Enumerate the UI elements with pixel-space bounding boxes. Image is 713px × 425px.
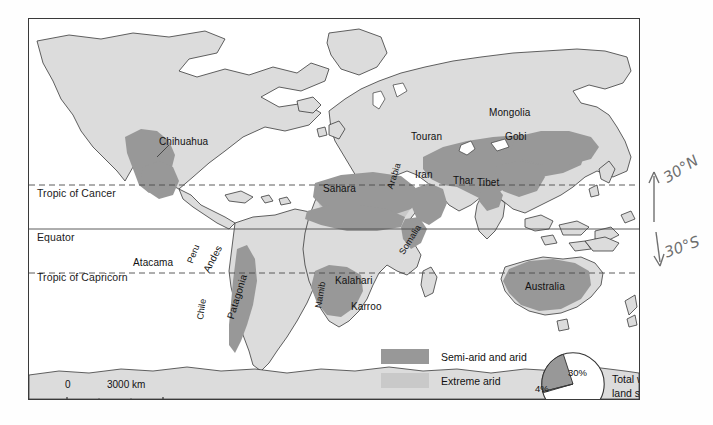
legend-item-extreme-arid: Extreme arid bbox=[381, 373, 527, 388]
place-label-chihuahua: Chihuahua bbox=[159, 136, 208, 147]
place-label-atacama: Atacama bbox=[133, 257, 173, 268]
pie-caption: Total world land surface bbox=[612, 373, 640, 400]
place-label-kalahari: Kalahari bbox=[335, 275, 373, 286]
place-label-touran: Touran bbox=[411, 131, 442, 142]
tropic-of-cancer-label: Tropic of Cancer bbox=[37, 187, 116, 199]
place-label-gobi: Gobi bbox=[505, 131, 527, 142]
pie-label-extreme-arid: 4% bbox=[535, 383, 549, 394]
scale-bar-graphic bbox=[65, 395, 165, 400]
place-label-karroo: Karroo bbox=[351, 301, 382, 312]
figure-root: .land{fill:#dcdcdc;stroke:#3a3a3a;stroke… bbox=[0, 0, 713, 425]
place-label-thar: Thar bbox=[453, 175, 474, 186]
world-map: .land{fill:#dcdcdc;stroke:#3a3a3a;stroke… bbox=[28, 18, 640, 400]
legend-label-semi-arid: Semi-arid and arid bbox=[441, 351, 527, 363]
scale-bar-max-label: 3000 km bbox=[107, 379, 145, 390]
scale-bar-min-label: 0 bbox=[65, 379, 71, 390]
equator-label: Equator bbox=[37, 231, 74, 243]
map-canvas: .land{fill:#dcdcdc;stroke:#3a3a3a;stroke… bbox=[29, 19, 639, 399]
scale-bar-labels: 0 3000 km bbox=[65, 379, 205, 393]
place-label-tibet: Tibet bbox=[477, 177, 499, 188]
legend-swatch-extreme-arid bbox=[381, 373, 429, 388]
place-label-australia: Australia bbox=[525, 281, 565, 292]
legend-label-extreme-arid: Extreme arid bbox=[441, 375, 501, 387]
map-legend: Semi-arid and arid Extreme arid bbox=[381, 349, 527, 397]
land-surface-pie-chart: 30% 4% Total world land surface bbox=[534, 345, 640, 400]
place-label-mongolia: Mongolia bbox=[489, 107, 530, 118]
pie-label-semi-arid: 30% bbox=[568, 367, 587, 378]
legend-item-semi-arid: Semi-arid and arid bbox=[381, 349, 527, 364]
tropic-of-capricorn-label: Tropic of Capricorn bbox=[37, 271, 128, 283]
pie-caption-line1: Total world bbox=[612, 373, 640, 387]
arrow-up-30n bbox=[649, 172, 659, 222]
place-label-sahara: Sahara bbox=[323, 183, 356, 194]
scale-bar: 0 3000 km bbox=[65, 379, 205, 400]
arrow-down-30s bbox=[654, 232, 664, 266]
pie-caption-line2: land surface bbox=[612, 387, 640, 401]
place-label-iran: Iran bbox=[415, 169, 433, 180]
legend-swatch-semi-arid bbox=[381, 349, 429, 364]
